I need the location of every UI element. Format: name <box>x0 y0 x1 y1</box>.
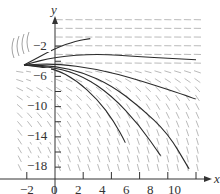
slope-segment <box>197 147 199 154</box>
slope-segment <box>157 138 159 145</box>
slope-segment <box>176 95 180 101</box>
slope-segment <box>107 121 110 127</box>
slope-segment <box>167 147 169 154</box>
slope-segment <box>167 155 169 162</box>
slope-segment <box>147 147 149 154</box>
x-tick-label: 0 <box>51 182 58 194</box>
slope-segment <box>17 88 24 91</box>
slope-segment <box>176 121 179 128</box>
slope-segment <box>18 147 22 153</box>
slope-segment <box>17 104 23 109</box>
slope-segment <box>127 155 129 162</box>
slope-segment <box>157 129 160 136</box>
y-tick-label: −6 <box>33 68 47 83</box>
x-tick-label: 10 <box>168 182 181 194</box>
slope-segment <box>78 164 80 171</box>
slope-segment <box>175 79 181 83</box>
slope-segment <box>67 130 70 136</box>
slope-segment <box>85 71 92 73</box>
slope-segment <box>117 155 119 162</box>
slope-segment <box>76 95 81 100</box>
slope-field-chart: x y −2 0 2 4 6 8 10 −2 −6 −10 −14 −18 <box>0 0 220 194</box>
slope-segment <box>18 164 21 170</box>
slope-segment <box>28 147 31 153</box>
slope-segment <box>88 164 90 171</box>
slope-segment <box>22 34 24 54</box>
slope-segment <box>125 71 132 73</box>
slope-segment <box>108 155 110 162</box>
slope-segment <box>12 38 14 58</box>
slope-segment <box>16 71 23 72</box>
slope-segment <box>118 164 120 171</box>
slope-segment <box>87 121 91 127</box>
slope-segment <box>127 164 129 171</box>
slope-segment <box>107 138 110 145</box>
slope-segment <box>177 155 179 162</box>
slope-segment <box>117 147 119 154</box>
slope-segment <box>185 87 190 92</box>
slope-segment <box>177 129 179 136</box>
slope-segment <box>66 79 73 82</box>
slope-segment <box>67 121 71 127</box>
slope-segment <box>97 138 100 145</box>
slope-segment <box>176 112 179 119</box>
slope-segment <box>174 71 181 73</box>
slope-segment <box>194 71 201 73</box>
slope-segment <box>97 121 100 127</box>
slope-segment <box>67 104 72 109</box>
slope-segment <box>77 104 82 110</box>
slope-segment <box>186 129 188 136</box>
y-axis-label: y <box>49 2 57 17</box>
slope-segment <box>155 79 161 83</box>
x-tick-label: 8 <box>147 182 154 194</box>
slope-segment <box>48 147 51 154</box>
slope-segment <box>187 155 189 162</box>
slope-segment <box>197 164 199 171</box>
slope-segment <box>78 147 81 154</box>
slope-segment <box>57 96 63 101</box>
slope-segment <box>126 87 131 92</box>
slope-segment <box>97 112 101 118</box>
slope-segment <box>177 164 179 171</box>
slope-segment <box>77 121 81 127</box>
slope-segment <box>56 87 62 91</box>
slope-segment <box>98 164 100 171</box>
slope-segment <box>68 156 71 163</box>
slope-segment <box>186 121 189 128</box>
slope-segment <box>166 95 170 101</box>
slope-segment <box>107 104 111 110</box>
slope-segment <box>196 121 199 128</box>
slope-segment <box>137 112 140 118</box>
slope-segment <box>108 164 110 171</box>
slope-segment <box>137 138 139 145</box>
slope-segment <box>37 113 42 119</box>
slope-segment <box>136 95 141 101</box>
slope-segment <box>77 112 81 118</box>
slope-segment <box>155 71 162 73</box>
slope-segment <box>157 164 159 171</box>
slope-segment <box>58 138 61 144</box>
slope-segment <box>115 79 121 83</box>
slope-segment <box>107 129 110 136</box>
slope-segment <box>36 87 42 91</box>
slope-segment <box>27 113 32 118</box>
slope-segment <box>137 155 139 162</box>
y-tick-label: −2 <box>33 38 47 53</box>
slope-segment <box>186 112 189 119</box>
slope-segment <box>196 112 199 119</box>
slope-segment <box>86 95 91 100</box>
x-axis-label: x <box>213 171 220 186</box>
slope-segment <box>156 112 159 118</box>
slope-segment <box>147 155 149 162</box>
slope-segment <box>135 71 142 73</box>
slope-segment <box>195 87 200 92</box>
slope-segment <box>17 121 22 127</box>
slope-segment <box>78 155 81 162</box>
slope-segment <box>137 129 140 136</box>
slope-segment <box>47 113 52 119</box>
slope-segment <box>87 112 91 118</box>
slope-segment <box>95 71 102 73</box>
slope-segment <box>196 129 198 136</box>
slope-segment <box>68 164 70 171</box>
y-tick-label: −14 <box>27 128 48 143</box>
